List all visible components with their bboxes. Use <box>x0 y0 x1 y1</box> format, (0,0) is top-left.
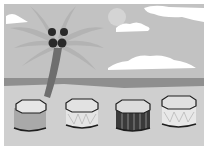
drum-4[interactable] <box>162 96 196 127</box>
scene-svg <box>4 4 204 146</box>
drum-4-top <box>162 96 196 109</box>
drum-1-top <box>16 100 46 113</box>
drum-3[interactable] <box>116 100 150 131</box>
drum-2-top <box>66 99 98 112</box>
beach-scene-illustration <box>4 4 204 146</box>
drum-3-top <box>116 100 150 113</box>
drum-1[interactable] <box>14 100 46 131</box>
drum-2[interactable] <box>66 99 98 128</box>
sun-icon <box>108 8 126 26</box>
